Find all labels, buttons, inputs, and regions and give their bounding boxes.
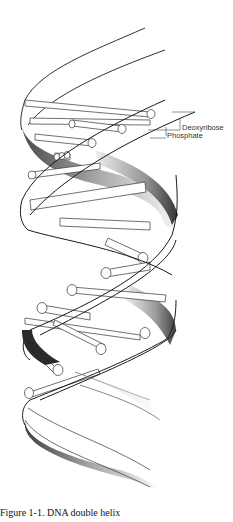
- dna-double-helix-illustration: [0, 0, 233, 522]
- label-phosphate: Phosphate: [167, 131, 203, 140]
- figure-caption: Figure 1-1. DNA double helix: [0, 507, 120, 518]
- backbone-strand-front: [20, 100, 195, 425]
- dna-helix-figure: Deoxyribose Phosphate Figure 1-1. DNA do…: [0, 0, 233, 522]
